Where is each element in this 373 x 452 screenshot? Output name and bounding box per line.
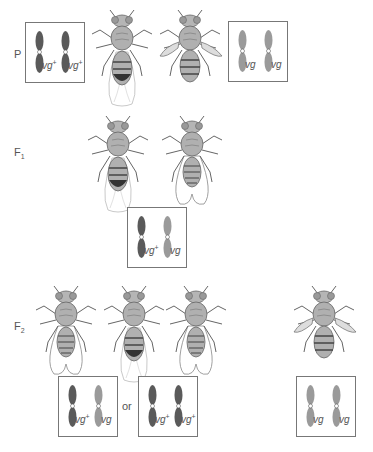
allele-base: vg <box>75 414 86 425</box>
allele-label: vg+ <box>181 413 196 425</box>
fly-wild-type-female-icon <box>102 284 166 384</box>
allele-label: vg+ <box>144 244 159 256</box>
allele-base: vg <box>155 414 166 425</box>
allele-label: vg <box>245 58 256 70</box>
gen-label-sub: 2 <box>21 327 25 334</box>
generation-label-f1: F1 <box>14 146 25 160</box>
gen-label-sub: 1 <box>21 153 25 160</box>
allele-sup: + <box>155 244 159 251</box>
fly-wild-type-male-icon <box>164 284 228 380</box>
allele-sup: + <box>166 413 170 420</box>
allele-label: vg <box>339 413 350 425</box>
gen-label-text: P <box>14 48 21 60</box>
allele-base: vg <box>181 414 192 425</box>
genotype-box-f2-homozygous-recessive: vg vg <box>296 376 356 437</box>
allele-label: vg <box>170 244 181 256</box>
allele-label: vg <box>101 413 112 425</box>
genotype-box-p-left: vg+ vg+ <box>25 22 85 83</box>
fly-vestigial-male-icon <box>158 8 224 100</box>
or-label: or <box>122 400 132 412</box>
allele-base: vg <box>170 245 181 256</box>
genotype-box-p-right: vg vg <box>228 21 288 82</box>
allele-sup: + <box>53 59 57 66</box>
allele-base: vg <box>271 59 282 70</box>
genotype-box-f2-homozygous-dominant: vg+ vg+ <box>138 376 198 437</box>
allele-base: vg <box>101 414 112 425</box>
allele-base: vg <box>339 414 350 425</box>
genotype-box-f2-heterozygous: vg+ vg <box>58 376 118 437</box>
allele-sup: + <box>192 413 196 420</box>
fly-wild-type-female-icon <box>90 8 154 108</box>
generation-label-p: P <box>14 48 21 60</box>
allele-label: vg+ <box>68 59 83 71</box>
allele-label: vg <box>271 58 282 70</box>
gen-label-text: F <box>14 320 21 332</box>
fly-wild-type-female-icon <box>86 114 150 214</box>
allele-label: vg+ <box>75 413 90 425</box>
allele-sup: + <box>79 59 83 66</box>
allele-label: vg+ <box>42 59 57 71</box>
fly-wild-type-male-icon <box>160 114 224 210</box>
allele-base: vg <box>68 60 79 71</box>
allele-sup: + <box>86 413 90 420</box>
allele-base: vg <box>313 414 324 425</box>
generation-label-f2: F2 <box>14 320 25 334</box>
allele-base: vg <box>245 59 256 70</box>
fly-vestigial-male-icon <box>292 284 358 376</box>
allele-base: vg <box>144 245 155 256</box>
genotype-box-f1: vg+ vg <box>127 207 187 268</box>
gen-label-text: F <box>14 146 21 158</box>
allele-base: vg <box>42 60 53 71</box>
allele-label: vg+ <box>155 413 170 425</box>
allele-label: vg <box>313 413 324 425</box>
fly-wild-type-male-icon <box>34 284 98 380</box>
